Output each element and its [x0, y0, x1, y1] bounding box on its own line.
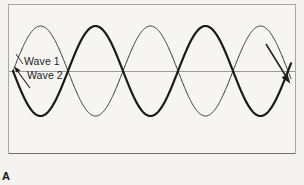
wave-1-label: Wave 1	[24, 55, 60, 67]
wave-2-label: Wave 2	[27, 69, 63, 81]
wave-interference-figure: Wave 1 Wave 2 A	[0, 0, 304, 185]
panel-letter-label: A	[2, 170, 10, 182]
wave-diagram-svg	[0, 0, 304, 185]
